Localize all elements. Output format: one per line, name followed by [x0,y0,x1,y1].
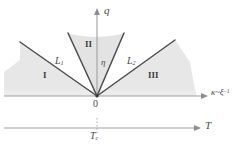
L1-label: L1 [55,56,64,67]
L2-label: L2 [127,56,136,67]
q-axis-arrowhead [94,8,100,15]
temperature-axis-label: T [205,120,211,131]
phase-diagram-svg [0,0,238,147]
region-I-label: I [43,71,47,80]
xi-exponent: −1 [224,88,230,94]
tc-subscript: c [96,134,99,141]
eta-angle-label: η [101,58,105,67]
L2-subscript: 2 [133,59,136,66]
L1-subscript: 1 [61,59,64,66]
q-axis-label: q [104,5,110,16]
temperature-axis-arrowhead [194,125,201,131]
kappa-axis-arrowhead [201,93,208,99]
region-II-label: II [85,40,92,49]
shaded-regions [4,33,196,96]
kappa-axis-label: κ~ξ−1 [211,88,230,97]
tc-tick-label: Tc [90,131,98,142]
figure-canvas: q κ~ξ−1 T 0 Tc L1 L2 η I II III [0,0,238,147]
origin-label: 0 [93,99,98,109]
region-III-label: III [148,71,159,80]
